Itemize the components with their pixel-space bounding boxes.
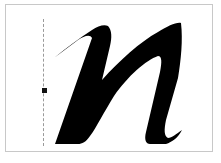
guide-handle[interactable] [42, 88, 47, 93]
glyph-n-outline[interactable] [0, 0, 221, 163]
glyph-n-shape [54, 23, 182, 144]
vertical-guide-line[interactable] [43, 19, 44, 146]
